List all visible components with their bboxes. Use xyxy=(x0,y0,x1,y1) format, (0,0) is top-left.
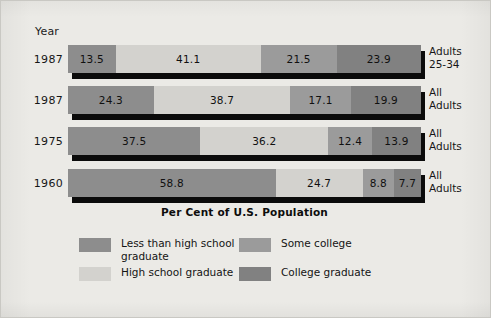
bar-row: 198724.338.717.119.9All Adults xyxy=(1,86,491,120)
bar-segment-value: 58.8 xyxy=(160,177,184,189)
bar-segment: 38.7 xyxy=(154,86,291,114)
stacked-bar: 58.824.78.87.7 xyxy=(68,169,421,197)
bar-segment: 24.3 xyxy=(68,86,154,114)
legend-item: Some college xyxy=(239,237,352,252)
bar-segment: 41.1 xyxy=(116,45,261,73)
bar-segment-value: 21.5 xyxy=(287,53,311,65)
legend-label: Less than high school graduate xyxy=(121,237,235,262)
legend-swatch xyxy=(79,267,111,281)
bar-segment-value: 37.5 xyxy=(122,135,146,147)
bar-year-label: 1960 xyxy=(19,177,63,190)
bar-segment-value: 19.9 xyxy=(374,94,398,106)
legend-swatch xyxy=(239,238,271,252)
chart-figure: Year 198713.541.121.523.9Adults 25-34198… xyxy=(0,0,491,318)
bar-segment-value: 24.3 xyxy=(99,94,123,106)
stacked-bar: 13.541.121.523.9 xyxy=(68,45,421,73)
bar-segment: 36.2 xyxy=(200,127,328,155)
legend-item: High school graduate xyxy=(79,266,233,281)
bar-group-label: All Adults xyxy=(429,126,489,153)
legend-swatch xyxy=(79,238,111,252)
bar-segment-value: 12.4 xyxy=(338,135,362,147)
legend-label: High school graduate xyxy=(121,266,233,279)
bar-segment: 13.9 xyxy=(372,127,421,155)
bar-segment: 24.7 xyxy=(276,169,363,197)
bar-segment: 7.7 xyxy=(394,169,421,197)
bar-segment: 12.4 xyxy=(328,127,372,155)
bar-group-label: All Adults xyxy=(429,85,489,112)
bar-row: 196058.824.78.87.7All Adults xyxy=(1,169,491,203)
bar-segment-value: 24.7 xyxy=(307,177,331,189)
legend-label: College graduate xyxy=(281,266,371,279)
bar-segment: 21.5 xyxy=(261,45,337,73)
bar-row: 197537.536.212.413.9All Adults xyxy=(1,127,491,161)
bar-segment: 17.1 xyxy=(290,86,350,114)
bar-segment-value: 7.7 xyxy=(399,177,416,189)
legend-swatch xyxy=(239,267,271,281)
bar-group-label: Adults 25-34 xyxy=(429,44,489,71)
bar-segment-value: 23.9 xyxy=(367,53,391,65)
bar-segment-value: 38.7 xyxy=(210,94,234,106)
stacked-bar: 24.338.717.119.9 xyxy=(68,86,421,114)
stacked-bar-plot: 198713.541.121.523.9Adults 25-34198724.3… xyxy=(1,45,491,205)
bar-segment: 58.8 xyxy=(68,169,276,197)
bar-segment-value: 41.1 xyxy=(176,53,200,65)
bar-segment-value: 8.8 xyxy=(370,177,387,189)
chart-legend: Less than high school graduateHigh schoo… xyxy=(79,237,419,293)
bar-year-label: 1987 xyxy=(19,53,63,66)
bar-segment-value: 13.9 xyxy=(384,135,408,147)
bar-segment-value: 13.5 xyxy=(80,53,104,65)
year-column-header: Year xyxy=(35,25,59,38)
bar-segment: 23.9 xyxy=(337,45,421,73)
bar-segment: 8.8 xyxy=(363,169,394,197)
bar-row: 198713.541.121.523.9Adults 25-34 xyxy=(1,45,491,79)
bar-group-label: All Adults xyxy=(429,168,489,195)
bar-year-label: 1987 xyxy=(19,94,63,107)
bar-segment: 19.9 xyxy=(351,86,421,114)
bar-year-label: 1975 xyxy=(19,135,63,148)
bar-segment: 37.5 xyxy=(68,127,200,155)
legend-label: Some college xyxy=(281,237,352,250)
bar-segment-value: 17.1 xyxy=(308,94,332,106)
x-axis-title: Per Cent of U.S. Population xyxy=(68,206,421,218)
legend-item: Less than high school graduate xyxy=(79,237,235,262)
stacked-bar: 37.536.212.413.9 xyxy=(68,127,421,155)
bar-segment: 13.5 xyxy=(68,45,116,73)
bar-segment-value: 36.2 xyxy=(252,135,276,147)
legend-item: College graduate xyxy=(239,266,371,281)
